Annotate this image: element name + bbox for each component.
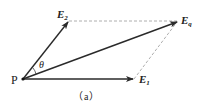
label-point-p: P <box>11 74 18 86</box>
point-p-dot <box>21 77 24 80</box>
label-e1: E1 <box>139 74 150 87</box>
label-e2: E2 <box>57 9 68 22</box>
label-theta: θ <box>39 60 44 70</box>
figure-caption: （a） <box>73 92 100 102</box>
angle-arc <box>33 68 36 74</box>
label-eq: Eq <box>181 15 192 28</box>
vector-diagram <box>0 0 201 107</box>
